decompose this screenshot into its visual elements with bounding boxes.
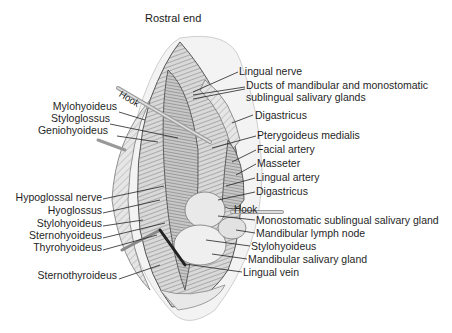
label-geniohyoideus: Geniohyoideus [38, 124, 108, 136]
label-mandibular-salivary-gland: Mandibular salivary gland [248, 253, 367, 265]
label-stylohyoideus-right: Stylohyoideus [251, 240, 316, 252]
label-monostomatic-sublingual-gland: Monostomatic sublingual salivary gland [256, 214, 439, 226]
label-lingual-artery: Lingual artery [256, 171, 320, 183]
hook-label-lower: Hook [234, 204, 257, 216]
label-thyrohyoideus: Thyrohyoideus [33, 241, 102, 253]
label-lingual-vein: Lingual vein [243, 266, 299, 278]
label-sternothyroideus: Sternothyroideus [38, 269, 117, 281]
label-masseter: Masseter [257, 157, 300, 169]
label-digastricus-upper: Digastricus [255, 109, 307, 121]
label-ducts-line2: sublingual salivary glands [246, 91, 366, 103]
surgical-field-drawing [0, 0, 452, 333]
label-stylohyoideus-left: Stylohyoideus [37, 217, 102, 229]
label-styloglossus: Styloglossus [51, 112, 110, 124]
anatomical-illustration: Rostral end Hook Hook Mylohyoideus Stylo… [0, 0, 452, 333]
rostral-end-title: Rostral end [145, 12, 201, 24]
label-ducts-line1: Ducts of mandibular and monostomatic [246, 79, 428, 91]
label-mandibular-lymph-node: Mandibular lymph node [256, 227, 365, 239]
label-hyoglossus: Hyoglossus [48, 204, 102, 216]
label-sternohyoideus: Sternohyoideus [29, 229, 102, 241]
label-mylohyoideus: Mylohyoideus [53, 100, 117, 112]
label-facial-artery: Facial artery [257, 143, 315, 155]
label-pterygoideus-medialis: Pterygoideus medialis [257, 129, 360, 141]
label-hypoglossal-nerve: Hypoglossal nerve [16, 191, 102, 203]
label-lingual-nerve: Lingual nerve [239, 65, 302, 77]
label-digastricus-lower: Digastricus [256, 185, 308, 197]
